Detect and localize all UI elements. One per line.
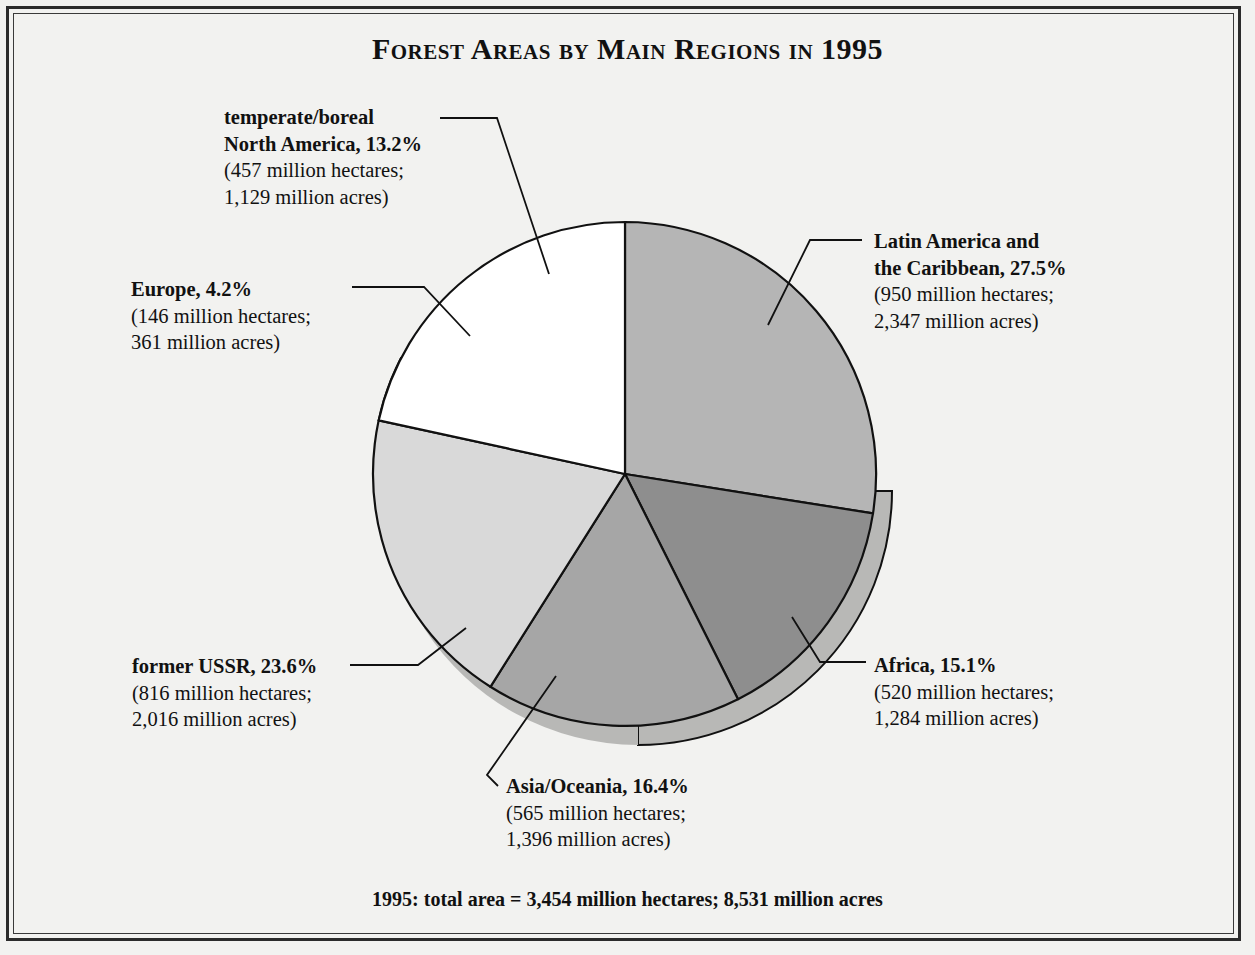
callout-latin-america-line1: Latin America and — [874, 228, 1066, 255]
callout-africa-line1: Africa, 15.1% — [874, 652, 1054, 679]
callout-asia-oceania-line1: Asia/Oceania, 16.4% — [506, 773, 689, 800]
callout-asia-oceania-acres: 1,396 million acres) — [506, 826, 689, 853]
pie-slices — [373, 222, 876, 726]
callout-africa: Africa, 15.1% (520 million hectares; 1,2… — [874, 652, 1054, 732]
callout-former-ussr-hectares: (816 million hectares; — [132, 680, 317, 707]
callout-asia-oceania-hectares: (565 million hectares; — [506, 800, 689, 827]
callout-north-america: temperate/boreal North America, 13.2% (4… — [224, 104, 422, 211]
callout-africa-acres: 1,284 million acres) — [874, 705, 1054, 732]
chart-figure: Forest Areas by Main Regions in 1995 — [0, 0, 1255, 955]
callout-latin-america: Latin America and the Caribbean, 27.5% (… — [874, 228, 1066, 335]
callout-europe-acres: 361 million acres) — [131, 329, 311, 356]
callout-north-america-line1: temperate/boreal — [224, 104, 422, 131]
callout-africa-hectares: (520 million hectares; — [874, 679, 1054, 706]
callout-former-ussr: former USSR, 23.6% (816 million hectares… — [132, 653, 317, 733]
callout-latin-america-hectares: (950 million hectares; — [874, 281, 1066, 308]
callout-europe-hectares: (146 million hectares; — [131, 303, 311, 330]
callout-europe: Europe, 4.2% (146 million hectares; 361 … — [131, 276, 311, 356]
pie-slice-latin-america[interactable] — [625, 222, 876, 513]
callout-north-america-acres: 1,129 million acres) — [224, 184, 422, 211]
callout-latin-america-acres: 2,347 million acres) — [874, 308, 1066, 335]
callout-former-ussr-line1: former USSR, 23.6% — [132, 653, 317, 680]
callout-latin-america-line2: the Caribbean, 27.5% — [874, 255, 1066, 282]
callout-north-america-line2: North America, 13.2% — [224, 131, 422, 158]
callout-europe-line1: Europe, 4.2% — [131, 276, 311, 303]
chart-footnote: 1995: total area = 3,454 million hectare… — [0, 888, 1255, 911]
callout-asia-oceania: Asia/Oceania, 16.4% (565 million hectare… — [506, 773, 689, 853]
callout-north-america-hectares: (457 million hectares; — [224, 157, 422, 184]
callout-former-ussr-acres: 2,016 million acres) — [132, 706, 317, 733]
